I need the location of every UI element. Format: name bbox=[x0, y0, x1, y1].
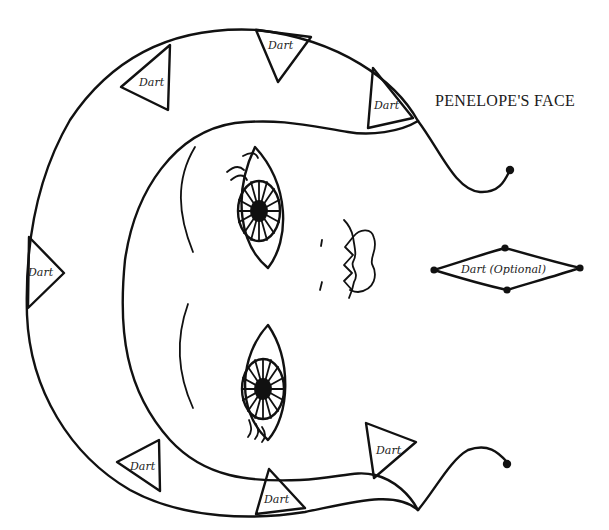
optional-dart: Dart (Optional) bbox=[430, 244, 583, 293]
optional-dart-label: Dart (Optional) bbox=[460, 263, 546, 276]
nose-mark-upper bbox=[321, 240, 322, 246]
dart-bottom-center bbox=[256, 469, 305, 514]
dart-label-top-center: Dart bbox=[267, 39, 294, 52]
outer-pattern-edge bbox=[27, 30, 418, 517]
lower-tie-tail bbox=[418, 448, 507, 510]
upper-eye bbox=[227, 147, 283, 268]
inner-face-outline bbox=[123, 121, 418, 510]
dart-top-right bbox=[368, 68, 413, 128]
lower-brow-line bbox=[180, 304, 193, 408]
lower-eye bbox=[242, 325, 285, 442]
nose-mark-lower bbox=[320, 282, 322, 290]
dart-label-top-left: Dart bbox=[138, 76, 165, 89]
upper-tail-dot bbox=[506, 166, 514, 174]
dart-label-bottom-right: Dart bbox=[375, 444, 402, 457]
upper-brow-line bbox=[181, 147, 195, 252]
dart-label-bottom-center: Dart bbox=[263, 493, 290, 506]
lower-tail-dot bbox=[503, 460, 511, 468]
penelope-face-pattern: Dart Dart Dart Dart Dart Dart Dart bbox=[0, 0, 609, 530]
lips bbox=[344, 220, 375, 298]
dart-label-bottom-left: Dart bbox=[129, 460, 156, 473]
upper-tie-tail bbox=[418, 121, 510, 192]
dart-label-top-right: Dart bbox=[373, 99, 400, 112]
pattern-title: PENELOPE'S FACE bbox=[435, 92, 575, 109]
dart-label-left: Dart bbox=[27, 266, 54, 279]
